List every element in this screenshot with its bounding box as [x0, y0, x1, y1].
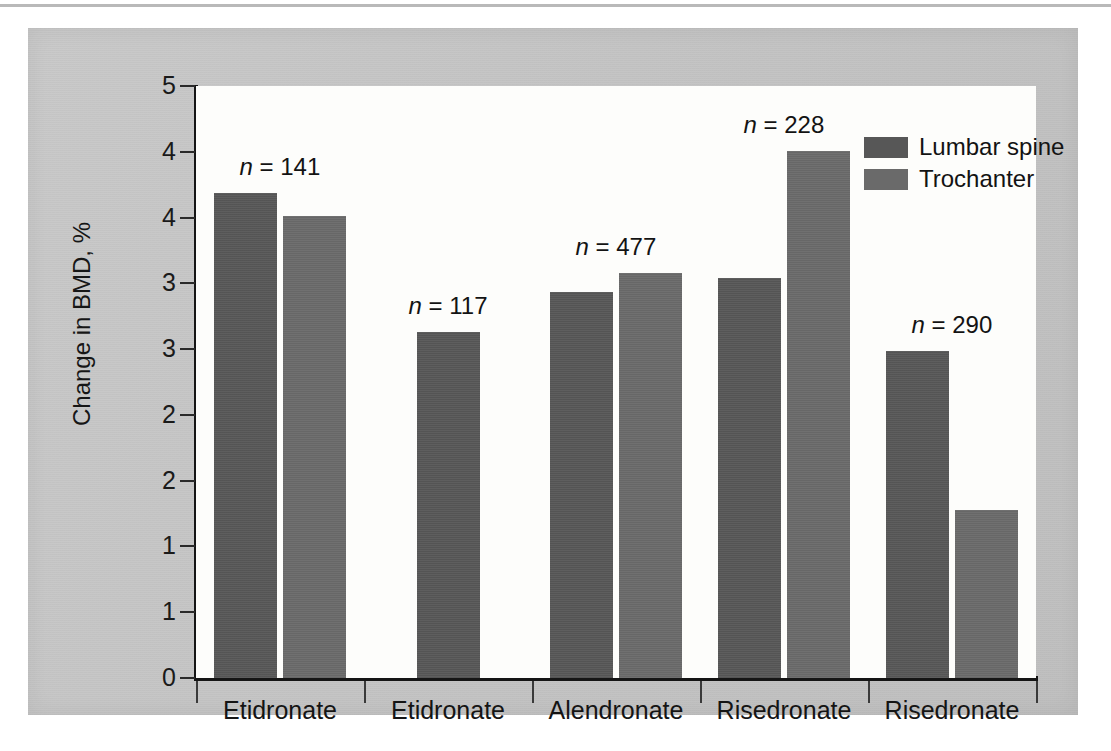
sample-size-annotation: n = 141	[240, 153, 321, 181]
annotation-value: = 117	[422, 292, 488, 319]
bar-lumbar-spine	[718, 278, 781, 678]
y-axis-tick-label: 1	[136, 533, 176, 558]
y-axis-tick-mark	[180, 611, 195, 613]
bar-trochanter	[619, 273, 682, 678]
y-axis-tick-label: 2	[136, 468, 176, 493]
bar-trochanter	[283, 216, 346, 678]
annotation-value: = 228	[757, 111, 824, 138]
bar-lumbar-spine	[417, 332, 480, 678]
x-axis-tick-label: Alendronate	[532, 696, 700, 725]
y-axis-tick-mark	[180, 217, 195, 219]
bar-lumbar-spine	[886, 351, 949, 678]
legend-item: Lumbar spine	[864, 132, 1064, 162]
y-axis-tick-mark	[180, 414, 195, 416]
figure-root: Change in BMD, % 5443322110 EtidronateEt…	[0, 0, 1111, 751]
legend-swatch-icon	[864, 169, 908, 190]
sample-size-annotation: n = 290	[912, 311, 993, 339]
y-axis-tick-mark	[180, 85, 195, 87]
sample-size-annotation: n = 477	[576, 233, 657, 261]
y-axis-tick-label: 4	[136, 205, 176, 230]
legend: Lumbar spineTrochanter	[864, 132, 1064, 196]
annotation-value: = 290	[925, 311, 992, 338]
bar-trochanter	[787, 151, 850, 678]
legend-label: Trochanter	[919, 165, 1034, 193]
y-axis-tick-mark	[180, 677, 195, 679]
y-axis-tick-label: 2	[136, 402, 176, 427]
annotation-variable-n: n	[409, 292, 422, 319]
sample-size-annotation: n = 117	[409, 292, 488, 320]
y-axis-tick-mark	[180, 151, 195, 153]
annotation-variable-n: n	[912, 311, 925, 338]
y-axis-tick-mark	[180, 282, 195, 284]
annotation-value: = 477	[589, 233, 656, 260]
y-axis-tick-label: 1	[136, 599, 176, 624]
sample-size-annotation: n = 228	[744, 111, 825, 139]
scanned-figure-panel: Change in BMD, % 5443322110 EtidronateEt…	[28, 28, 1078, 715]
y-axis-tick-group: 5443322110	[128, 28, 176, 715]
y-axis-tick-mark	[180, 348, 195, 350]
y-axis-tick-mark	[180, 545, 195, 547]
x-axis-group-separator	[1036, 681, 1038, 703]
annotation-variable-n: n	[576, 233, 589, 260]
annotation-variable-n: n	[240, 153, 253, 180]
bar-trochanter	[955, 510, 1018, 678]
bar-lumbar-spine	[214, 193, 277, 678]
y-axis-tick-label: 3	[136, 270, 176, 295]
bar-lumbar-spine	[550, 292, 613, 678]
legend-swatch-icon	[864, 137, 908, 158]
y-axis-tick-mark	[180, 480, 195, 482]
y-axis-tick-label: 3	[136, 336, 176, 361]
legend-label: Lumbar spine	[919, 133, 1064, 161]
y-axis-tick-label: 5	[136, 73, 176, 98]
legend-item: Trochanter	[864, 164, 1064, 194]
x-axis-tick-label: Etidronate	[364, 696, 532, 725]
annotation-value: = 141	[253, 153, 320, 180]
annotation-variable-n: n	[744, 111, 757, 138]
y-axis-title: Change in BMD, %	[68, 194, 96, 454]
x-axis-tick-label: Risedronate	[868, 696, 1036, 725]
top-divider-rule	[0, 4, 1111, 7]
x-axis-tick-label: Risedronate	[700, 696, 868, 725]
y-axis-tick-label: 4	[136, 139, 176, 164]
y-axis-tick-label: 0	[136, 665, 176, 690]
x-axis-tick-label: Etidronate	[196, 696, 364, 725]
